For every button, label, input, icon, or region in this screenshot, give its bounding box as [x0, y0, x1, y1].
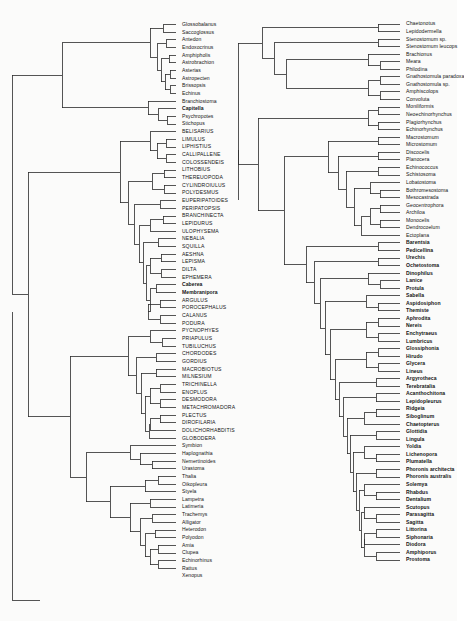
- taxon-label: Nereis: [406, 323, 422, 328]
- taxon-label: LITHOBIUS: [182, 167, 210, 172]
- taxon-label: Xenopus: [182, 573, 202, 578]
- taxon-label: Rhabdus: [406, 490, 428, 495]
- taxon-label: Brissopsis: [182, 83, 206, 88]
- taxon-label: CALLIPALLENE: [182, 152, 221, 157]
- taxon-label: PYCNOPHYES: [182, 328, 219, 333]
- taxon-label: CALANUS: [182, 313, 207, 318]
- taxon-label: Stenostomum leucops: [406, 44, 457, 49]
- taxon-label: Microstomum: [406, 142, 437, 147]
- taxon-label: Diodora: [406, 542, 426, 547]
- taxon-label: Moniliformis: [406, 104, 434, 109]
- taxon-label: Oikopleura: [182, 482, 207, 487]
- taxon-label: Latimeria: [182, 504, 203, 509]
- taxon-label: CYLINDROIULUS: [182, 183, 225, 188]
- taxon-label: Solemya: [406, 482, 427, 487]
- taxon-label: Echinorhynchus: [406, 127, 443, 132]
- taxon-label: Themiste: [406, 308, 429, 313]
- taxon-label: Lineus: [406, 369, 423, 374]
- taxon-label: Chaetopterus: [406, 422, 439, 427]
- taxon-label: Astropecten: [182, 76, 210, 81]
- taxon-label: Caberea: [182, 282, 202, 287]
- taxon-label: Echinus: [182, 91, 200, 96]
- taxon-label: Hirudo: [406, 354, 423, 359]
- branch-line: [12, 312, 40, 600]
- taxon-label: Amphipholis: [182, 53, 210, 58]
- taxon-label: Clupea: [182, 550, 198, 555]
- taxon-label: Astrobrachion: [182, 60, 214, 65]
- taxon-label: Capitella: [182, 106, 204, 111]
- taxon-label: SQUILLA: [182, 244, 205, 249]
- taxon-label: Siboglinum: [406, 414, 434, 419]
- taxon-label: Yoldia: [406, 444, 421, 449]
- taxon-label: Lumbricus: [406, 339, 433, 344]
- taxon-label: Lepidodermella: [406, 29, 442, 34]
- taxon-label: Brachionus: [406, 52, 432, 57]
- taxon-label: Alligator: [182, 520, 201, 525]
- taxon-label: ENOPLUS: [182, 390, 207, 395]
- left-cladogram-panel: GlossobalanusSaccoglossusAntedonEndoxocr…: [0, 0, 230, 621]
- taxon-label: Echinorhinus: [182, 558, 212, 563]
- taxon-label: Stenostomum sp.: [406, 37, 446, 42]
- taxon-label: Meara: [406, 59, 421, 64]
- right-cladogram-panel: ChaetonotusLepidodermellaStenostomum sp.…: [228, 0, 457, 621]
- taxon-label: Glossobalanus: [182, 22, 216, 27]
- taxon-label: Sagitta: [406, 520, 423, 525]
- taxon-label: Nemertinoides: [182, 459, 216, 464]
- taxon-label: Geocentrophora: [406, 203, 444, 208]
- taxon-label: MACROBIOTUS: [182, 367, 222, 372]
- taxon-label: DILTA: [182, 267, 196, 272]
- taxon-label: Argyrotheca: [406, 376, 437, 381]
- taxon-label: Macrostomum: [406, 135, 439, 140]
- taxon-label: Siphonaria: [406, 535, 433, 540]
- taxon-label: Phoronis australis: [406, 474, 451, 479]
- taxon-label: ULOPHYSEMA: [182, 229, 219, 234]
- taxon-label: Littorina: [406, 527, 427, 532]
- taxon-label: Neoechinorhynchus: [406, 112, 452, 117]
- taxon-label: Schistosoma: [406, 172, 436, 177]
- taxon-label: Lichenopora: [406, 452, 437, 457]
- taxon-label: PERIPATOPSIS: [182, 206, 220, 211]
- taxon-label: Branchiostoma: [182, 99, 217, 104]
- taxon-label: EPHEMERA: [182, 275, 212, 280]
- taxon-label: DESMODORA: [182, 397, 217, 402]
- taxon-label: Antedon: [182, 37, 201, 42]
- taxon-label: Convoluta: [406, 97, 429, 102]
- taxon-label: COLOSSENDEIS: [182, 160, 224, 165]
- taxon-label: TUBILUCHUS: [182, 344, 216, 349]
- taxon-label: Prostoma: [406, 557, 430, 562]
- taxon-label: Glycera: [406, 361, 425, 366]
- taxon-label: PODURA: [182, 321, 205, 326]
- taxon-label: Monocelis: [406, 218, 429, 223]
- taxon-label: EUPERIPATOIDES: [182, 198, 228, 203]
- taxon-label: NEBALIA: [182, 236, 205, 241]
- taxon-label: Aspidosiphon: [406, 301, 441, 306]
- taxon-label: Urechis: [406, 255, 425, 260]
- taxon-label: DOLICHORHABDITIS: [182, 428, 235, 433]
- taxon-label: AESHNA: [182, 252, 204, 257]
- taxon-label: Gnathostomula sp.: [406, 82, 450, 87]
- taxon-label: Amia: [182, 543, 194, 548]
- taxon-label: Rattus: [182, 566, 197, 571]
- taxon-label: THEREUOPODA: [182, 175, 223, 180]
- taxon-label: LEPIDURUS: [182, 221, 213, 226]
- taxon-label: Barentsia: [406, 240, 430, 245]
- taxon-label: Styela: [182, 489, 196, 494]
- taxon-label: Terebratalia: [406, 384, 435, 389]
- taxon-label: Lingula: [406, 437, 424, 442]
- taxon-label: Haplognathia: [182, 451, 213, 456]
- taxon-label: BRANCHINECTA: [182, 213, 224, 218]
- taxon-label: Dendrocoelum: [406, 225, 440, 230]
- taxon-label: GLOBODERA: [182, 436, 216, 441]
- taxon-label: Stichopus: [182, 121, 205, 126]
- taxon-label: Plagiorhynchus: [406, 120, 442, 125]
- taxon-label: Trachemys: [182, 512, 207, 517]
- taxon-label: Ridgeia: [406, 406, 425, 411]
- taxon-label: LIPHISTIUS: [182, 144, 211, 149]
- taxon-label: Membranipora: [182, 290, 218, 295]
- taxon-label: Asterias: [182, 68, 201, 73]
- taxon-label: Pedicellina: [406, 248, 433, 253]
- taxon-label: Gnathostomula paradoxa: [406, 74, 464, 79]
- taxon-label: CHORDODES: [182, 351, 216, 356]
- taxon-label: Lobatostoma: [406, 180, 436, 185]
